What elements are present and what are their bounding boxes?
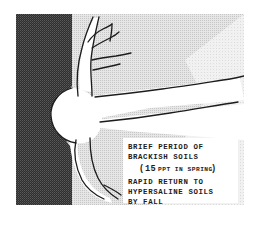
salinity-close-paren: ) <box>211 164 217 174</box>
soil-cross-section-illustration: BRIEF PERIOD OF BRACKISH SOILS ( 15 PPT … <box>0 0 260 233</box>
annotation-line-5: HYPERSALINE SOILS <box>128 188 214 196</box>
figure-container: BRIEF PERIOD OF BRACKISH SOILS ( 15 PPT … <box>0 0 260 233</box>
annotation-line-2: BRACKISH SOILS <box>128 153 199 161</box>
annotation-line-1: BRIEF PERIOD OF <box>128 143 204 151</box>
annotation-salinity-line: ( 15 PPT IN SPRING ) <box>139 164 217 174</box>
annotation-line-6: BY FALL <box>128 198 163 206</box>
salinity-value: 15 <box>145 164 156 174</box>
annotation-line-4: RAPID RETURN TO <box>128 178 204 186</box>
salinity-unit-text: PPT IN SPRING <box>158 166 213 173</box>
salinity-open-paren: ( <box>139 164 145 174</box>
